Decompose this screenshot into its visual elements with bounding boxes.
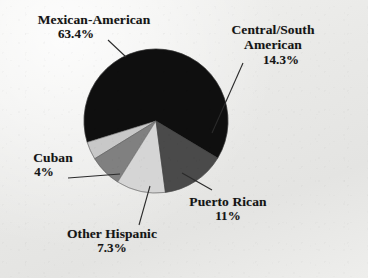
pie-label-other-hispanic-name: Other Hispanic: [46, 226, 178, 241]
pie-label-puerto-rican-name: Puerto Rican: [172, 194, 284, 209]
pie-chart-figure: Mexican-American 63.4% Central/South Ame…: [0, 0, 368, 278]
pie-label-central-south-american-name-line1: Central/South: [208, 22, 338, 37]
pie-label-central-south-american-name-line2: American: [208, 37, 338, 52]
pie-label-central-south-american: Central/South American 14.3%: [208, 22, 338, 68]
pie-label-mexican-american-name: Mexican-American: [14, 12, 174, 27]
pie-label-central-south-american-value: 14.3%: [224, 53, 338, 68]
pie-label-puerto-rican: Puerto Rican 11%: [172, 194, 284, 224]
pie-label-mexican-american: Mexican-American 63.4%: [14, 12, 174, 42]
pie-label-puerto-rican-value: 11%: [172, 209, 284, 224]
pie-label-cuban-value: 4%: [0, 165, 92, 180]
pie-label-mexican-american-value: 63.4%: [0, 27, 174, 42]
leader-line-mexican-american: [108, 40, 126, 57]
pie-label-other-hispanic: Other Hispanic 7.3%: [46, 226, 178, 256]
pie-label-cuban: Cuban 4%: [14, 150, 92, 180]
pie-label-other-hispanic-value: 7.3%: [46, 241, 178, 256]
pie-label-cuban-name: Cuban: [14, 150, 92, 165]
